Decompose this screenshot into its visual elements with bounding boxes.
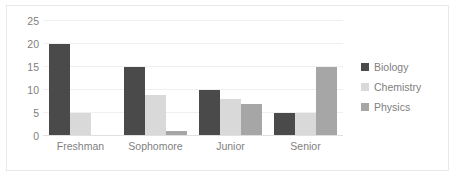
x-axis-category-labels: FreshmanSophomoreJuniorSenior (43, 141, 343, 152)
bar[interactable] (49, 44, 70, 136)
bar-chart: 0510152025 FreshmanSophomoreJuniorSenior… (0, 0, 456, 184)
x-axis-tick-label: Senior (268, 141, 343, 152)
bar-slot (295, 21, 316, 136)
bar-slot (274, 21, 295, 136)
y-axis-tick-label: 20 (9, 39, 39, 50)
bar-group (268, 21, 343, 136)
x-axis-baseline (43, 135, 343, 136)
legend-label: Biology (374, 62, 408, 73)
bar-slot (145, 21, 166, 136)
bar[interactable] (70, 113, 91, 136)
bar[interactable] (295, 113, 316, 136)
x-axis-tick-label: Sophomore (118, 141, 193, 152)
bar-groups (43, 21, 343, 136)
bar-slot (199, 21, 220, 136)
y-axis-tick-label: 15 (9, 62, 39, 73)
bar[interactable] (124, 67, 145, 136)
bar-group (118, 21, 193, 136)
legend-swatch-icon (361, 83, 369, 91)
legend-label: Physics (374, 102, 410, 113)
legend-item-biology[interactable]: Biology (361, 57, 451, 77)
legend-item-chemistry[interactable]: Chemistry (361, 77, 451, 97)
bar-slot (241, 21, 262, 136)
y-axis-tick-label: 0 (9, 131, 39, 142)
bar[interactable] (316, 67, 337, 136)
x-axis-tick-label: Junior (193, 141, 268, 152)
bar-slot (220, 21, 241, 136)
y-axis: 0510152025 (8, 21, 39, 136)
bar-slot (91, 21, 112, 136)
bar-group (43, 21, 118, 136)
legend-swatch-icon (361, 103, 369, 111)
bar-slot (124, 21, 145, 136)
plot-area (43, 21, 343, 136)
x-axis-tick-label: Freshman (43, 141, 118, 152)
bar-slot (166, 21, 187, 136)
legend-swatch-icon (361, 63, 369, 71)
y-axis-tick-label: 10 (9, 85, 39, 96)
y-axis-tick-label: 25 (9, 16, 39, 27)
bar-slot (70, 21, 91, 136)
y-axis-tick-label: 5 (9, 108, 39, 119)
chart-legend: BiologyChemistryPhysics (361, 57, 451, 117)
bar-slot (49, 21, 70, 136)
bar-group (193, 21, 268, 136)
bar-slot (316, 21, 337, 136)
bar[interactable] (145, 95, 166, 136)
legend-label: Chemistry (374, 82, 421, 93)
bar[interactable] (199, 90, 220, 136)
bar[interactable] (274, 113, 295, 136)
bar[interactable] (220, 99, 241, 136)
legend-item-physics[interactable]: Physics (361, 97, 451, 117)
bar[interactable] (241, 104, 262, 136)
